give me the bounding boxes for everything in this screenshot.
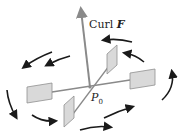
curl-diagram: Curl F P0 [0,0,187,137]
paddle-front [64,96,74,127]
rotation-arrow [104,107,132,118]
rotation-arrow [125,53,144,62]
rotation-arrow [104,39,132,42]
paddle-right [130,69,155,89]
point-p0 [88,85,91,88]
rotation-arrow [80,126,110,130]
curl-label: Curl F [89,18,126,31]
rotation-arrow [162,72,173,100]
point-label: P0 [90,91,103,106]
rotation-arrow [32,115,55,121]
rotation-arrow [7,90,16,117]
paddle-back [107,45,117,74]
rotation-arrow [47,56,70,65]
paddle-left [27,83,52,103]
